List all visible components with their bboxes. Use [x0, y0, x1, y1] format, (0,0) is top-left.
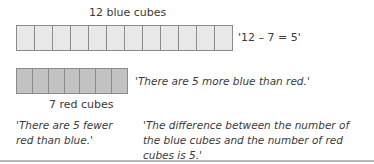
cube — [49, 69, 65, 93]
cube — [71, 26, 89, 50]
cube — [197, 26, 215, 50]
fewer-red-statement: 'There are 5 fewer red than blue.' — [16, 118, 128, 148]
cube — [33, 69, 49, 93]
cube — [143, 26, 161, 50]
cube — [125, 26, 143, 50]
equation-text: '12 – 7 = 5' — [238, 31, 301, 44]
cube — [53, 26, 71, 50]
cube — [65, 69, 81, 93]
red-cubes-label: 7 red cubes — [49, 98, 114, 111]
cube — [215, 26, 232, 50]
cube — [89, 26, 107, 50]
cube — [35, 26, 53, 50]
horizontal-divider — [0, 160, 374, 162]
cube — [107, 26, 125, 50]
difference-statement: 'The difference between the number of th… — [143, 118, 365, 163]
red-cube-bar — [16, 68, 128, 94]
cube — [161, 26, 179, 50]
more-blue-statement: 'There are 5 more blue than red.' — [135, 74, 310, 89]
cube — [17, 26, 35, 50]
cube — [17, 69, 33, 93]
cube — [179, 26, 197, 50]
cube — [112, 69, 127, 93]
cube — [80, 69, 96, 93]
cube — [96, 69, 112, 93]
blue-cube-bar — [16, 25, 233, 51]
blue-cubes-label: 12 blue cubes — [89, 6, 166, 19]
